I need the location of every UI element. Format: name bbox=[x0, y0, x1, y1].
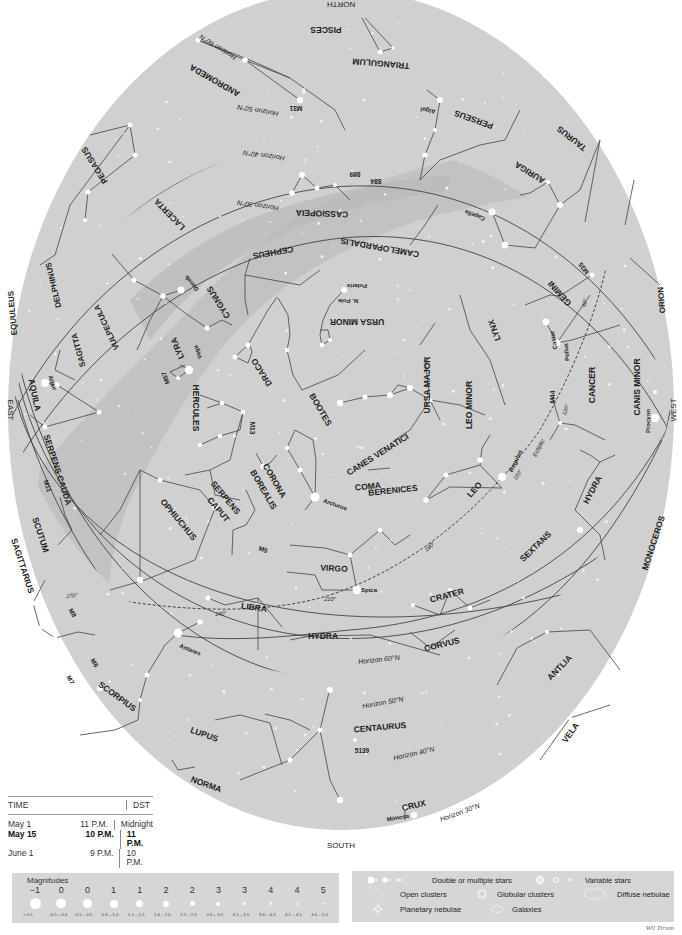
magnitude-range: 3.1 – 3.5 bbox=[233, 912, 250, 917]
magnitude-value: 1 bbox=[101, 885, 127, 896]
deep-sky-label: 5139 bbox=[355, 747, 370, 754]
magnitude-star-icon bbox=[270, 902, 273, 905]
symbol-legend: Double or multiple stars Variable stars … bbox=[352, 871, 674, 922]
magnitude-value: 5 bbox=[310, 885, 336, 896]
magnitude-value: 2 bbox=[179, 885, 205, 896]
magnitude-value: 0 bbox=[74, 885, 100, 896]
magnitude-star-icon bbox=[110, 900, 118, 908]
deep-sky-label: 884 bbox=[370, 178, 381, 185]
magnitude-entry: 4 bbox=[258, 885, 284, 905]
magnitude-value: 2 bbox=[153, 885, 179, 896]
deep-sky-label: 869 bbox=[349, 171, 360, 178]
diffuse-nebulae-label: Diffuse nebulae bbox=[617, 890, 670, 899]
magnitude-value: 3 bbox=[232, 885, 258, 896]
magnitude-range: -0.5 – 0.0 bbox=[49, 912, 67, 917]
magnitude-value: 4 bbox=[284, 885, 310, 896]
magnitude-value: 1 bbox=[127, 885, 153, 896]
magnitude-entry: 0 bbox=[74, 885, 100, 908]
dst-header: DST bbox=[127, 800, 150, 810]
galaxies-label: Galaxies bbox=[512, 905, 542, 914]
star-name-label: Procyon bbox=[645, 409, 651, 433]
magnitude-range: 4.6 – 5.0 bbox=[311, 912, 328, 917]
magnitude-legend: Magnitudes −1> 0.50-0.5 – 0.000.1 – 0.51… bbox=[12, 873, 339, 923]
magnitude-entry: 2 bbox=[179, 885, 205, 906]
magnitude-entry: 5 bbox=[310, 885, 336, 904]
magnitude-star-icon bbox=[30, 898, 41, 909]
constellation-label: CANIS MINOR bbox=[632, 358, 642, 415]
magnitude-entry: −1 bbox=[22, 885, 48, 909]
north-label: NORTH bbox=[327, 0, 356, 9]
planetary-nebulae-label: Planetary nebulae bbox=[400, 905, 461, 914]
magnitude-star-icon bbox=[322, 903, 323, 904]
constellation-label: HYDRA bbox=[308, 631, 338, 641]
magnitude-value: 3 bbox=[205, 885, 231, 896]
constellation-label: URSA MAJOR bbox=[422, 357, 432, 414]
magnitude-star-icon bbox=[83, 899, 92, 908]
planetary-nebula-icon bbox=[372, 903, 384, 915]
constellation-label: VIRGO bbox=[320, 563, 348, 574]
magnitude-star-icon bbox=[296, 903, 298, 905]
time-header: TIME bbox=[8, 800, 80, 810]
time-table-header: TIME DST bbox=[8, 796, 153, 815]
diffuse-nebula-icon bbox=[582, 885, 610, 901]
magnitude-range: 4.1 – 4.5 bbox=[285, 912, 302, 917]
magnitude-entry: 3 bbox=[232, 885, 258, 905]
magnitude-entry: 4 bbox=[284, 885, 310, 905]
deep-sky-label: M7 bbox=[65, 674, 76, 686]
south-label: SOUTH bbox=[327, 841, 355, 850]
magnitude-value: −1 bbox=[22, 885, 48, 896]
constellation-label: EQUULEUS bbox=[6, 290, 19, 336]
magnitude-range: 2.6 – 3.0 bbox=[206, 912, 223, 917]
magnitude-entry: 1 bbox=[101, 885, 127, 908]
star-name-label: Spica bbox=[361, 587, 378, 593]
magnitude-range: 0.1 – 0.5 bbox=[75, 912, 92, 917]
globular-clusters-label: Globular clusters bbox=[497, 890, 554, 899]
magnitude-entry: 3 bbox=[205, 885, 231, 906]
magnitude-value: 4 bbox=[258, 885, 284, 896]
magnitude-entry: 1 bbox=[127, 885, 153, 907]
magnitude-star-icon bbox=[163, 901, 169, 907]
star-name-label: Polaris bbox=[346, 283, 367, 289]
magnitude-range: 2.1 – 2.5 bbox=[180, 912, 197, 917]
variable-star-icon bbox=[534, 875, 578, 885]
west-label: WEST bbox=[669, 398, 678, 421]
magnitude-star-icon bbox=[243, 902, 246, 905]
deep-sky-label: M44 bbox=[549, 390, 556, 403]
constellation-label: PISCES bbox=[310, 25, 342, 35]
double-stars-label: Double or multiple stars bbox=[432, 876, 512, 885]
ecliptic-degree-label: 210° bbox=[323, 596, 336, 602]
time-row-highlight: May 15 10 P.M. 11 P.M. bbox=[8, 830, 153, 849]
constellation-label: VELA bbox=[560, 720, 581, 744]
double-star-icon bbox=[366, 875, 410, 885]
open-clusters-label: Open clusters bbox=[400, 890, 447, 899]
magnitude-star-icon bbox=[216, 902, 220, 906]
constellation-label: URSA MINOR bbox=[330, 317, 384, 327]
magnitude-range: 1.1 – 1.5 bbox=[128, 912, 145, 917]
artist-signature: Wil Tirion bbox=[646, 924, 674, 932]
magnitude-range: 1.6 – 2.0 bbox=[154, 912, 171, 917]
magnitude-range: > 0.5 bbox=[23, 912, 33, 917]
magnitude-star-icon bbox=[190, 901, 195, 906]
magnitude-star-icon bbox=[136, 900, 143, 907]
magnitude-entry: 0 bbox=[48, 885, 74, 908]
magnitude-range: 0.6 – 1.0 bbox=[102, 912, 119, 917]
star-name-label: N. Pole bbox=[337, 298, 358, 304]
magnitude-value: 0 bbox=[48, 885, 74, 896]
variable-stars-label: Variable stars bbox=[585, 876, 631, 885]
magnitude-range: 3.6 – 4.0 bbox=[259, 912, 276, 917]
globular-cluster-icon bbox=[476, 888, 488, 900]
constellation-label: ORION bbox=[656, 286, 667, 313]
deep-sky-label: M31 bbox=[289, 105, 302, 112]
constellation-label: CANCER bbox=[587, 367, 597, 403]
deep-sky-label: M13 bbox=[249, 422, 256, 435]
magnitude-star-icon bbox=[56, 899, 66, 909]
time-table: TIME DST May 1 11 P.M. Midnight May 15 1… bbox=[8, 796, 153, 868]
galaxy-icon bbox=[489, 903, 505, 915]
east-label: EAST bbox=[6, 400, 15, 421]
constellation-label: CASSIOPEIA bbox=[296, 208, 349, 220]
constellation-label: HERCULES bbox=[191, 385, 201, 432]
magnitude-entry: 2 bbox=[153, 885, 179, 907]
constellation-label: LEO MINOR bbox=[464, 381, 474, 429]
time-row: June 1 9 P.M. 10 P.M. bbox=[8, 849, 153, 868]
open-cluster-icon bbox=[372, 888, 384, 900]
